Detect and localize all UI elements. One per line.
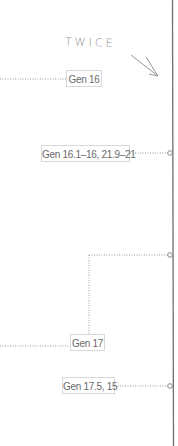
timeline-node-icon <box>168 253 173 258</box>
label-gen16-1-16-21-9-21: Gen 16.1–16, 21.9–21 <box>41 145 130 162</box>
label-gen17-5-15: Gen 17.5, 15 <box>62 377 115 394</box>
handwritten-annotation: TWICE <box>65 35 116 50</box>
label-gen17: Gen 17 <box>70 334 105 351</box>
label-gen16: Gen 16 <box>66 70 102 87</box>
arrow-icon <box>131 55 158 76</box>
timeline-axis <box>173 0 174 446</box>
timeline-node-icon <box>168 384 173 389</box>
timeline-node-icon <box>168 151 173 156</box>
